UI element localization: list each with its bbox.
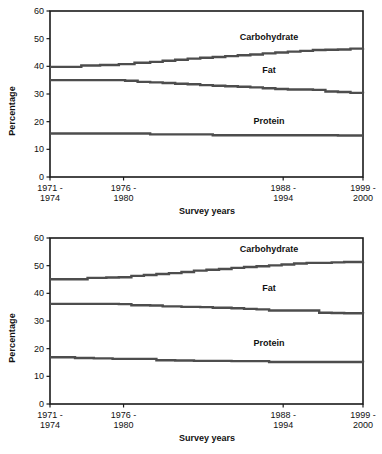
series-label-protein: Protein — [254, 338, 285, 348]
series-label-protein: Protein — [254, 116, 285, 126]
y-tick-label: 30 — [34, 89, 44, 99]
y-tick-label: 20 — [34, 117, 44, 127]
y-tick-label: 60 — [34, 233, 44, 243]
y-tick-label: 30 — [34, 316, 44, 326]
y-tick-label: 0 — [39, 399, 44, 409]
series-label-carbohydrate: Carbohydrate — [240, 32, 299, 42]
y-tick-label: 40 — [34, 288, 44, 298]
series-label-carbohydrate: Carbohydrate — [240, 244, 299, 254]
y-tick-label: 0 — [39, 172, 44, 182]
series-line-protein — [50, 357, 363, 362]
series-line-fat — [50, 304, 363, 314]
series-line-carbohydrate — [50, 48, 363, 67]
x-tick-label-line1: 1999 - — [350, 183, 376, 193]
x-tick-label-line2: 1980 — [114, 193, 134, 203]
x-tick-label-line1: 1971 - — [37, 183, 63, 193]
chart-plot-area-top: 01020304050601971 -19741976 -19801988 -1… — [0, 0, 382, 227]
y-tick-label: 20 — [34, 344, 44, 354]
plot-frame — [50, 11, 363, 177]
x-tick-label-line1: 1976 - — [111, 183, 137, 193]
x-axis-title: Survey years — [50, 206, 364, 216]
x-tick-label-line1: 1976 - — [111, 410, 137, 420]
x-tick-label-line2: 2000 — [353, 193, 373, 203]
x-axis-title: Survey years — [50, 433, 364, 443]
chart-panel-bottom: Percentage 01020304050601971 -19741976 -… — [0, 227, 382, 454]
x-tick-label-line1: 1988 - — [270, 410, 296, 420]
y-tick-label: 50 — [34, 261, 44, 271]
x-tick-label-line1: 1999 - — [350, 410, 376, 420]
y-tick-label: 40 — [34, 61, 44, 71]
x-tick-label-line2: 1974 — [40, 420, 60, 430]
series-label-fat: Fat — [262, 65, 276, 75]
series-line-protein — [50, 134, 363, 136]
series-line-carbohydrate — [50, 262, 363, 279]
x-tick-label-line2: 1994 — [273, 420, 293, 430]
x-tick-label-line2: 1980 — [114, 420, 134, 430]
series-label-fat: Fat — [262, 283, 276, 293]
x-tick-label-line1: 1988 - — [270, 183, 296, 193]
x-tick-label-line2: 1974 — [40, 193, 60, 203]
figure-root: Percentage 01020304050601971 -19741976 -… — [0, 0, 382, 454]
y-tick-label: 10 — [34, 144, 44, 154]
y-tick-label: 10 — [34, 371, 44, 381]
x-tick-label-line2: 1994 — [273, 193, 293, 203]
x-tick-label-line1: 1971 - — [37, 410, 63, 420]
chart-plot-area-bottom: 01020304050601971 -19741976 -19801988 -1… — [0, 227, 382, 454]
series-line-fat — [50, 80, 363, 93]
x-tick-label-line2: 2000 — [353, 420, 373, 430]
y-tick-label: 50 — [34, 34, 44, 44]
chart-panel-top: Percentage 01020304050601971 -19741976 -… — [0, 0, 382, 227]
y-tick-label: 60 — [34, 6, 44, 16]
